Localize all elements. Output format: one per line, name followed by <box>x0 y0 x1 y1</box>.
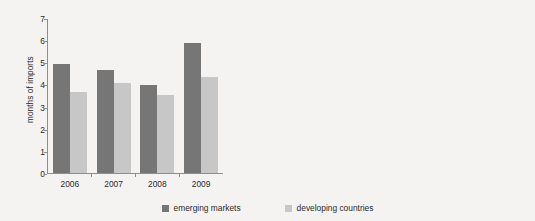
left-y-tick-mark <box>44 130 47 131</box>
chart-figure: months of imports 01234567 2006200720082… <box>0 0 535 221</box>
chart-panel-months-of-imports: months of imports 01234567 2006200720082… <box>0 0 268 221</box>
x-axis-labels-left: 2006200720082009 <box>48 179 223 189</box>
y-axis-ticks-left: 01234567 <box>25 19 45 174</box>
left-bar-group <box>179 19 223 173</box>
bar-series-left <box>48 19 223 173</box>
left-y-tick-mark <box>44 108 47 109</box>
left-x-tick-mark <box>135 174 136 177</box>
left-bar <box>114 83 131 173</box>
left-y-tick-mark <box>44 41 47 42</box>
chart-legend: emerging marketsdeveloping countries <box>0 203 535 213</box>
left-bar-group <box>92 19 136 173</box>
legend-item-label: emerging markets <box>174 203 241 213</box>
left-x-tick-label: 2007 <box>92 179 136 189</box>
left-y-tick-mark <box>44 152 47 153</box>
left-bar <box>201 77 218 173</box>
legend-item-label: developing countries <box>297 203 374 213</box>
legend-item: emerging markets <box>162 203 241 213</box>
left-bar <box>70 92 87 173</box>
left-bar <box>140 85 157 173</box>
left-x-tick-label: 2006 <box>48 179 92 189</box>
left-bar <box>53 64 70 173</box>
plot-area-left: 01234567 2006200720082009 <box>47 19 223 174</box>
left-x-tick-label: 2008 <box>136 179 180 189</box>
left-bar-group <box>48 19 92 173</box>
left-y-tick-mark <box>44 85 47 86</box>
left-x-tick-mark <box>91 174 92 177</box>
chart-panel-short-term-debt: in terms of the stock of external short-… <box>268 0 535 221</box>
left-x-tick-mark <box>179 174 180 177</box>
left-y-tick-mark <box>44 19 47 20</box>
legend-item: developing countries <box>285 203 374 213</box>
left-y-tick-mark <box>44 174 47 175</box>
left-x-tick-label: 2009 <box>179 179 223 189</box>
left-bar <box>184 43 201 173</box>
legend-swatch-light <box>285 205 292 212</box>
left-y-tick-mark <box>44 63 47 64</box>
left-bar-group <box>136 19 180 173</box>
legend-swatch-dark <box>162 205 169 212</box>
left-bar <box>97 70 114 173</box>
left-bar <box>157 95 174 173</box>
